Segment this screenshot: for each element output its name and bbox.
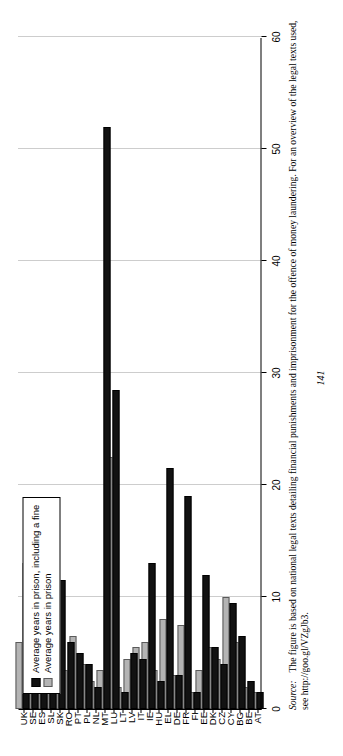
category-label: UK (18, 712, 28, 725)
bar-group (243, 37, 252, 709)
bar-fine (157, 681, 164, 709)
value-axis-tick (261, 484, 266, 485)
bar-fine (166, 468, 173, 709)
bar-group (216, 37, 225, 709)
legend-swatch-fine (31, 678, 40, 687)
value-axis-tick (261, 596, 266, 597)
bar-group (72, 37, 81, 709)
bar-fine (175, 675, 182, 709)
bar-fine (67, 642, 74, 709)
page-folio: 141 (314, 0, 325, 756)
legend-label-fine: Average years in prison, including a fin… (30, 505, 40, 673)
bar-fine (229, 603, 236, 709)
value-axis-label: 60 (271, 31, 281, 42)
figure-rotator: 0102030405060ATBEBGCYCZDKEEFIFRDEELHUIEI… (0, 0, 343, 756)
bar-group (198, 37, 207, 709)
bar-group (126, 37, 135, 709)
bar-fine (148, 563, 155, 709)
bar-group (135, 37, 144, 709)
value-axis-line (260, 38, 261, 710)
bar-group (81, 37, 90, 709)
value-axis-tick (261, 260, 266, 261)
bar-prison (15, 642, 22, 709)
value-axis-tick (261, 36, 266, 37)
bar-fine (184, 496, 191, 709)
source-lead: Source: (286, 681, 297, 710)
bar-fine (202, 575, 209, 709)
legend-label-prison: Average years in prison (42, 573, 52, 673)
chart-legend: Average years in prison, including a fin… (22, 497, 60, 694)
bar-fine (238, 636, 245, 709)
legend-item-fine: Average years in prison, including a fin… (30, 505, 40, 687)
bar-fine (247, 681, 254, 709)
bar-group (225, 37, 234, 709)
bar-group (144, 37, 153, 709)
value-axis-label: 50 (271, 143, 281, 154)
bar-fine (121, 692, 128, 709)
source-text: The figure is based on national legal te… (286, 20, 309, 710)
bar-group (162, 37, 171, 709)
value-axis-label: 30 (271, 367, 281, 378)
bar-fine (211, 647, 218, 709)
bar-fine (76, 653, 83, 709)
value-axis-tick (261, 372, 266, 373)
value-axis-tick (261, 148, 266, 149)
bar-fine (130, 653, 137, 709)
bar-group (90, 37, 99, 709)
bar-fine (103, 127, 110, 709)
source-note: Source:The figure is based on national l… (286, 20, 310, 710)
bar-fine (220, 664, 227, 709)
value-axis-label: 20 (271, 479, 281, 490)
value-axis-label: 40 (271, 255, 281, 266)
legend-swatch-prison (43, 678, 52, 687)
value-axis-label: 0 (271, 706, 281, 712)
bar-group (99, 37, 108, 709)
bar-fine (193, 692, 200, 709)
bar-fine (85, 664, 92, 709)
bar-fine (94, 687, 101, 709)
legend-item-prison: Average years in prison (42, 505, 52, 687)
bar-fine (139, 659, 146, 709)
value-axis-label: 10 (271, 591, 281, 602)
bar-fine (112, 390, 119, 709)
bar-group (180, 37, 189, 709)
